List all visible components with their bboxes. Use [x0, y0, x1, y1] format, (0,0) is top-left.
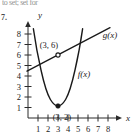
x-tick-label-8: 8 — [106, 124, 110, 134]
y-axis-label: y — [37, 10, 42, 20]
filled-point-marker-3-2 — [56, 104, 61, 109]
annotation-label-3-6: (3, 6) — [40, 40, 59, 50]
x-tick-label-7: 7 — [96, 124, 100, 134]
x-tick-label-5: 5 — [76, 124, 80, 134]
x-axis-label: x — [125, 113, 130, 123]
x-tick-label-1: 1 — [36, 124, 40, 134]
x-tick-label-4: 4 — [66, 124, 71, 134]
coordinate-plot: 1 2 3 4 5 6 7 8 1 2 3 4 5 6 7 8 y x (3, … — [0, 0, 133, 140]
y-tick-label-3: 3 — [17, 82, 21, 92]
x-tick-label-3: 3 — [56, 124, 60, 134]
y-tick-label-1: 1 — [17, 103, 21, 113]
y-tick-label-2: 2 — [17, 92, 21, 102]
x-tick-label-6: 6 — [86, 124, 90, 134]
y-tick-label-4: 4 — [17, 71, 22, 81]
y-tick-label-8: 8 — [17, 29, 21, 39]
open-point-marker-3-6 — [56, 53, 60, 57]
curve-label-f: f(x) — [78, 69, 91, 79]
curve-label-g: g(x) — [103, 30, 118, 40]
y-axis-arrow-icon — [25, 21, 31, 27]
graph-figure: to set; set for 7. — [0, 0, 133, 140]
x-axis-arrow-icon — [116, 115, 122, 121]
y-tick-label-6: 6 — [17, 50, 21, 60]
x-tick-label-2: 2 — [46, 124, 50, 134]
y-tick-label-7: 7 — [17, 40, 21, 50]
annotation-label-3-2: (3, 2) — [53, 112, 72, 122]
y-tick-label-5: 5 — [17, 61, 21, 71]
